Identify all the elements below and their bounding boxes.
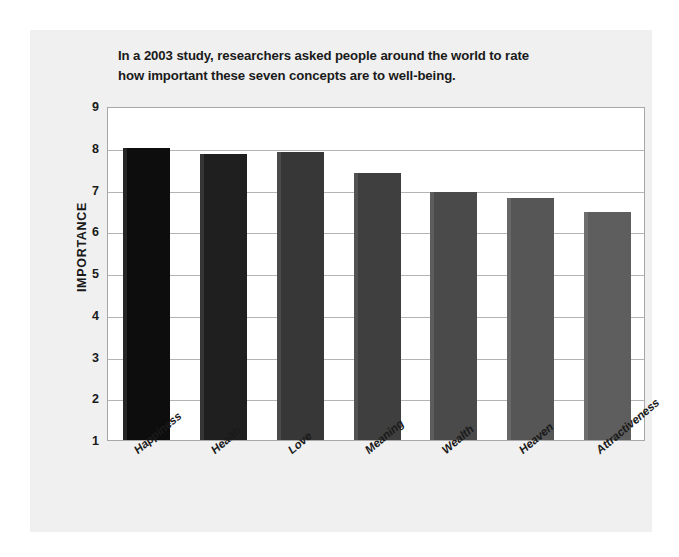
y-axis-tick-label: 1	[73, 434, 99, 448]
gridline	[108, 150, 644, 151]
bar-fill	[507, 198, 554, 440]
bar-fill	[123, 148, 170, 440]
bar-fill	[430, 192, 477, 440]
bar	[277, 152, 324, 440]
y-axis-tick-label: 6	[73, 225, 99, 239]
chart-title-line-2: how important these seven concepts are t…	[118, 66, 638, 86]
bar-fill	[584, 212, 631, 440]
y-axis-tick-label: 9	[73, 100, 99, 114]
chart-title-line-1: In a 2003 study, researchers asked peopl…	[118, 46, 638, 66]
bar	[584, 212, 631, 440]
y-axis-tick-label: 8	[73, 142, 99, 156]
bar-fill	[200, 154, 247, 440]
plot-area	[107, 107, 645, 441]
bar	[123, 148, 170, 440]
bar	[430, 192, 477, 440]
bar	[354, 173, 401, 440]
y-axis-tick-label: 7	[73, 184, 99, 198]
y-axis-tick-label: 4	[73, 309, 99, 323]
bar-fill	[354, 173, 401, 440]
y-axis-tick-label: 5	[73, 267, 99, 281]
y-axis-tick-label: 3	[73, 351, 99, 365]
y-axis-tick-label: 2	[73, 392, 99, 406]
chart-card: In a 2003 study, researchers asked peopl…	[30, 30, 652, 532]
bar-fill	[277, 152, 324, 440]
bar	[507, 198, 554, 440]
chart-page: In a 2003 study, researchers asked peopl…	[0, 0, 679, 557]
bar	[200, 154, 247, 440]
chart-title: In a 2003 study, researchers asked peopl…	[118, 46, 638, 87]
y-axis-title: IMPORTANCE	[75, 187, 89, 307]
